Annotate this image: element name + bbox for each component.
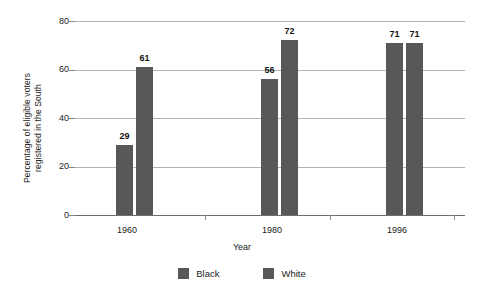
legend-swatch-icon-black [178, 268, 189, 279]
bar-value-1960-black: 29 [110, 132, 140, 141]
bar-1960-white [136, 67, 153, 215]
x-axis-tick-mark-1 [205, 215, 206, 220]
x-axis-tick-mark-3 [454, 215, 455, 220]
chart-legend: Black White [0, 268, 484, 279]
x-axis-title: Year [0, 243, 484, 252]
legend-item-white: White [263, 268, 305, 279]
bar-chart: Percentage of eligible voters registered… [0, 0, 484, 299]
plot-area: 29 61 56 72 71 71 [75, 21, 465, 215]
x-axis-tick-mark-2 [330, 215, 331, 220]
legend-item-black: Black [178, 268, 219, 279]
bar-value-1980-white: 72 [275, 27, 305, 36]
x-tick-label-1996: 1996 [367, 226, 427, 235]
bar-1960-black [116, 145, 133, 215]
gridline-80 [75, 21, 465, 22]
bar-value-1980-black: 56 [255, 66, 285, 75]
gridline-baseline-0 [75, 215, 465, 216]
x-tick-label-1980: 1980 [242, 226, 302, 235]
bar-1996-black [386, 43, 403, 215]
legend-label-black: Black [196, 268, 219, 279]
bar-1980-black [261, 79, 278, 215]
x-tick-label-1960: 1960 [97, 226, 157, 235]
legend-label-white: White [281, 268, 305, 279]
legend-swatch-icon-white [263, 268, 274, 279]
bar-value-1960-white: 61 [130, 54, 160, 63]
bar-1996-white [406, 43, 423, 215]
bar-value-1996-white: 71 [400, 30, 430, 39]
